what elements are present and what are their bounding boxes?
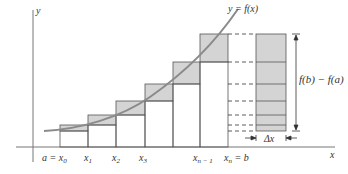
tick-label-x2: x2 bbox=[111, 152, 120, 165]
riemann-sum-diagram: f(b) − f(a) Δx y = f(x) y x a = x0 x1 x2… bbox=[0, 0, 348, 174]
tick-label-x1: x1 bbox=[83, 152, 92, 165]
x-axis-label: x bbox=[329, 149, 335, 160]
tick-label-xn-1: xn − 1 bbox=[192, 152, 213, 165]
stacked-column bbox=[256, 34, 286, 131]
tick-labels: a = x0 x1 x2 x3 xn − 1 xn = b bbox=[42, 152, 249, 165]
dx-label: Δx bbox=[263, 133, 275, 144]
curve-label: y = f(x) bbox=[227, 3, 259, 15]
diff-label: f(b) − f(a) bbox=[299, 73, 344, 86]
tick-label-x3: x3 bbox=[138, 152, 147, 165]
tick-label-xn: xn = b bbox=[223, 152, 249, 165]
tick-label-x0: a = x0 bbox=[42, 152, 67, 165]
shaded-regions bbox=[60, 34, 228, 131]
dashed-guides bbox=[228, 34, 256, 131]
y-axis-label: y bbox=[35, 5, 41, 16]
